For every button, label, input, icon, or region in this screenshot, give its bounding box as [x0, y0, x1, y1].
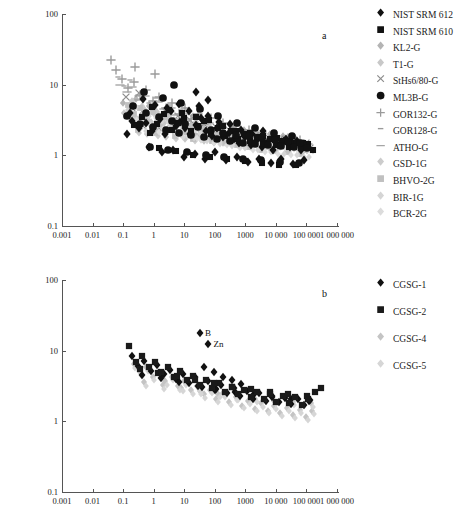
- legend-label: CGSG-2: [393, 305, 426, 319]
- legend-marker-icon: [371, 207, 391, 221]
- x-axis-tick: [337, 489, 338, 493]
- x-axis-tick-label: 1 000 000: [320, 230, 354, 240]
- x-axis-tick-label: 10 000: [264, 496, 287, 506]
- legend-label: CGSG-4: [393, 332, 426, 346]
- x-axis-tick-label: 10 000: [264, 230, 287, 240]
- x-axis-tick-label: 0.01: [85, 496, 100, 506]
- x-axis-tick-label: 100 000: [293, 496, 321, 506]
- x-axis-tick: [123, 489, 124, 493]
- x-axis-tick-label: 100: [208, 230, 221, 240]
- y-axis-line: [62, 280, 63, 493]
- plot-area-b: [62, 280, 337, 492]
- legend-marker-icon: [371, 359, 391, 373]
- y-axis-tick-label: 0.1: [36, 221, 58, 231]
- x-axis-tick: [245, 489, 246, 493]
- legend-label: BHVO-2G: [393, 174, 435, 188]
- legend-marker-icon: [371, 58, 391, 72]
- x-axis-tick-label: 1 000 000: [320, 496, 354, 506]
- y-axis-tick: [62, 14, 66, 15]
- legend-label: ATHO-G: [393, 141, 428, 155]
- x-axis-tick-label: 100: [208, 496, 221, 506]
- point-annotation: Zn: [213, 339, 223, 349]
- y-axis-tick: [62, 226, 66, 227]
- legend-marker-icon: [371, 108, 391, 122]
- x-axis-tick-label: 1: [152, 230, 156, 240]
- chart-panel-a: a 0.0010.010.1110100100010 000100 0001 0…: [0, 0, 469, 266]
- y-axis-tick: [62, 421, 66, 422]
- x-axis-tick: [123, 223, 124, 227]
- legend-marker-icon: [371, 25, 391, 39]
- legend-marker-icon: [371, 332, 391, 346]
- legend-label: BIR-1G: [393, 191, 424, 205]
- y-axis-line: [62, 14, 63, 227]
- x-axis-tick: [276, 489, 277, 493]
- y-axis-tick-label: 100: [36, 9, 58, 19]
- legend-marker-icon: [371, 91, 391, 105]
- x-axis-tick-label: 1000: [237, 230, 254, 240]
- y-axis-tick-label: 10: [36, 80, 58, 90]
- x-axis-tick: [337, 223, 338, 227]
- x-axis-tick-label: 1000: [237, 496, 254, 506]
- legend-marker-icon: [371, 157, 391, 171]
- y-axis-tick: [62, 85, 66, 86]
- x-axis-tick-label: 100 000: [293, 230, 321, 240]
- legend-marker-icon: [371, 305, 391, 319]
- legend-label: GOR128-G: [393, 124, 437, 138]
- y-axis-tick: [62, 351, 66, 352]
- x-axis-line: [62, 492, 339, 493]
- x-axis-tick-label: 10: [180, 496, 189, 506]
- x-axis-tick: [93, 489, 94, 493]
- y-axis-tick-label: 1: [36, 150, 58, 160]
- x-axis-tick-label: 0.1: [118, 496, 129, 506]
- x-axis-tick: [154, 223, 155, 227]
- x-axis-tick-label: 0.001: [52, 496, 71, 506]
- y-axis-tick: [62, 155, 66, 156]
- legend-marker-icon: [371, 124, 391, 138]
- x-axis-tick: [215, 223, 216, 227]
- y-axis-tick: [62, 280, 66, 281]
- x-axis-tick: [306, 223, 307, 227]
- legend-label: CGSG-5: [393, 359, 426, 373]
- y-axis-tick-label: 1: [36, 416, 58, 426]
- legend-marker-icon: [371, 191, 391, 205]
- y-axis-tick-label: 100: [36, 275, 58, 285]
- point-annotation: B: [205, 328, 211, 338]
- x-axis-tick: [276, 223, 277, 227]
- legend-marker-icon: [371, 41, 391, 55]
- legend-marker-icon: [371, 278, 391, 292]
- x-axis-tick: [184, 223, 185, 227]
- legend-label: StHs6/80-G: [393, 74, 438, 88]
- x-axis-tick-label: 1: [152, 496, 156, 506]
- legend-label: BCR-2G: [393, 207, 427, 221]
- y-axis-tick-label: 0.1: [36, 487, 58, 497]
- legend-label: T1-G: [393, 58, 414, 72]
- chart-panel-b: b 0.0010.010.1110100100010 000100 0001 0…: [0, 266, 469, 532]
- x-axis-tick-label: 0.01: [85, 230, 100, 240]
- legend-marker-icon: [371, 141, 391, 155]
- x-axis-tick-label: 0.1: [118, 230, 129, 240]
- x-axis-tick: [93, 223, 94, 227]
- x-axis-line: [62, 226, 339, 227]
- x-axis-tick-label: 0.001: [52, 230, 71, 240]
- legend-label: CGSG-1: [393, 278, 426, 292]
- legend-label: ML3B-G: [393, 91, 428, 105]
- x-axis-tick: [184, 489, 185, 493]
- x-axis-tick: [154, 489, 155, 493]
- x-axis-tick-label: 10: [180, 230, 189, 240]
- y-axis-tick: [62, 492, 66, 493]
- x-axis-tick: [245, 223, 246, 227]
- y-axis-tick-label: 10: [36, 346, 58, 356]
- legend-label: GSD-1G: [393, 157, 427, 171]
- legend-label: NIST SRM 612: [393, 8, 453, 22]
- legend-marker-icon: [371, 174, 391, 188]
- legend-marker-icon: [371, 74, 391, 88]
- legend-label: KL2-G: [393, 41, 420, 55]
- x-axis-tick: [215, 489, 216, 493]
- plot-area-a: [62, 14, 337, 226]
- legend-marker-icon: [371, 8, 391, 22]
- legend-label: NIST SRM 610: [393, 25, 453, 39]
- x-axis-tick: [306, 489, 307, 493]
- legend-label: GOR132-G: [393, 108, 437, 122]
